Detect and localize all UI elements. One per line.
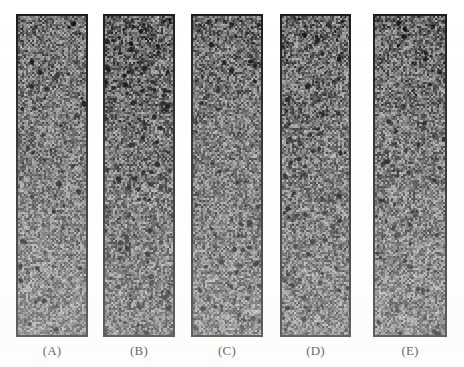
panel-label-c: (C) (191, 343, 263, 358)
panel-label-b: (B) (103, 343, 175, 358)
panel-texture-canvas (193, 16, 261, 335)
sample-panel-e (373, 14, 447, 337)
panel-label-e: (E) (373, 343, 447, 358)
panel-texture-canvas (18, 16, 86, 335)
panel-texture-canvas (375, 16, 445, 335)
panel-label-d: (D) (280, 343, 351, 358)
panel-label-a: (A) (16, 343, 88, 358)
sample-panel-a (16, 14, 88, 337)
figure-panel-grid: (A)(B)(C)(D)(E) (0, 0, 464, 367)
panel-texture-canvas (105, 16, 173, 335)
sample-panel-b (103, 14, 175, 337)
sample-panel-d (280, 14, 351, 337)
panel-texture-canvas (282, 16, 349, 335)
sample-panel-c (191, 14, 263, 337)
